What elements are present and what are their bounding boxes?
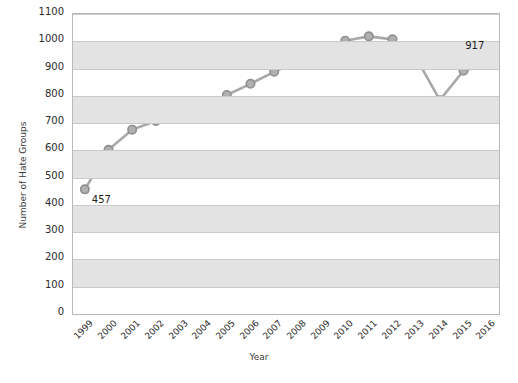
data-point-marker (365, 32, 373, 40)
gridline (73, 232, 499, 233)
gridline (73, 205, 499, 206)
gridline (73, 14, 499, 15)
data-point-label: 457 (92, 194, 111, 205)
y-tick-label: 100 (20, 279, 64, 290)
data-point-marker (128, 125, 136, 133)
background-band (73, 96, 499, 123)
y-tick-label: 700 (20, 115, 64, 126)
y-tick-label: 200 (20, 251, 64, 262)
gridline (73, 287, 499, 288)
background-band (73, 41, 499, 68)
background-band (73, 259, 499, 286)
y-tick-label: 400 (20, 197, 64, 208)
gridline (73, 69, 499, 70)
gridline (73, 150, 499, 151)
gridline (73, 123, 499, 124)
y-tick-label: 1100 (20, 6, 64, 17)
gridline (73, 259, 499, 260)
y-tick-label: 800 (20, 88, 64, 99)
y-tick-label: 900 (20, 61, 64, 72)
x-axis-title: Year (0, 352, 518, 362)
y-tick-label: 1000 (20, 33, 64, 44)
gridline (73, 178, 499, 179)
data-point-marker (81, 185, 89, 193)
y-tick-label: 600 (20, 142, 64, 153)
plot-area: 457917 (72, 13, 500, 315)
data-point-marker (246, 80, 254, 88)
y-tick-label: 0 (20, 306, 64, 317)
gridline (73, 314, 499, 315)
line-chart: Number of Hate Groups Year 0100200300400… (0, 0, 518, 383)
data-point-label: 917 (465, 40, 484, 51)
gridline (73, 96, 499, 97)
y-tick-label: 300 (20, 224, 64, 235)
gridline (73, 41, 499, 42)
y-tick-label: 500 (20, 170, 64, 181)
background-band (73, 150, 499, 177)
background-band (73, 205, 499, 232)
